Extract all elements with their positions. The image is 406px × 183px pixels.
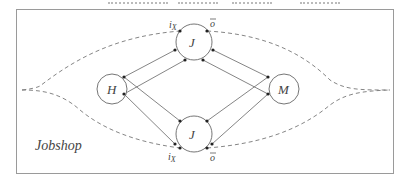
port-dot (201, 58, 204, 61)
port-dot (178, 119, 181, 122)
node-m-label: M (277, 82, 290, 97)
diagram-caption: Jobshop (35, 138, 82, 153)
port-dot (122, 75, 125, 78)
port-dot (205, 146, 208, 149)
wire-h-jbot-1 (124, 77, 180, 121)
port-label-top-output: o (210, 18, 215, 29)
dashed-curve-bottom-right (207, 90, 390, 148)
port-dot (122, 92, 125, 95)
wire-jtop-m-1 (213, 50, 268, 77)
port-dot (183, 58, 186, 61)
port-dot (178, 29, 181, 32)
wire-jbot-m-2 (212, 94, 268, 144)
jobshop-diagram: H J J M iX o iX o Jobshop (0, 0, 406, 183)
wire-h-jtop-1 (124, 50, 175, 77)
port-dot (205, 29, 208, 32)
port-label-bottom-output: o (210, 152, 215, 163)
wire-jbot-m-1 (207, 77, 268, 121)
port-dot (266, 92, 269, 95)
port-label-top-input: iX (169, 19, 178, 32)
port-dot (210, 142, 213, 145)
wire-h-jtop-2 (124, 60, 185, 94)
port-dot (211, 48, 214, 51)
port-dot (173, 48, 176, 51)
node-h-label: H (106, 82, 117, 97)
port-label-bottom-input: iX (168, 151, 177, 164)
port-dot (205, 119, 208, 122)
port-dot (173, 142, 176, 145)
wire-jtop-m-2 (203, 60, 268, 94)
wire-h-jbot-2 (124, 94, 175, 144)
port-dot (266, 75, 269, 78)
port-dot (178, 146, 181, 149)
